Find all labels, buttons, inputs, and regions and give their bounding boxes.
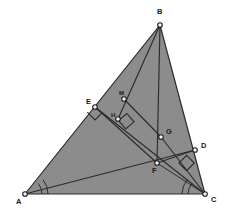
- point-label-e: E: [86, 97, 91, 106]
- geometry-canvas: A B C D E F G H M: [0, 0, 227, 216]
- point-label-h: H: [111, 112, 115, 118]
- vertex-dot-g[interactable]: [159, 135, 164, 140]
- vertex-dot-b[interactable]: [158, 23, 163, 28]
- vertex-dot-e[interactable]: [93, 105, 98, 110]
- point-label-f: F: [152, 166, 157, 175]
- point-label-m: M: [119, 90, 124, 96]
- vertex-dot-h[interactable]: [116, 117, 121, 122]
- vertex-dot-a[interactable]: [23, 192, 28, 197]
- geometry-figure: A B C D E F G H M: [0, 0, 227, 216]
- point-label-b: B: [157, 7, 163, 16]
- point-label-a: A: [16, 197, 22, 206]
- vertex-dot-d[interactable]: [193, 148, 198, 153]
- vertex-dot-c[interactable]: [203, 192, 208, 197]
- point-label-g: G: [166, 127, 172, 136]
- vertex-dot-m[interactable]: [122, 97, 127, 102]
- point-label-c: C: [211, 195, 217, 204]
- point-label-d: D: [201, 141, 207, 150]
- triangle-abc-shape: [25, 25, 205, 194]
- vertex-dot-f[interactable]: [155, 161, 160, 166]
